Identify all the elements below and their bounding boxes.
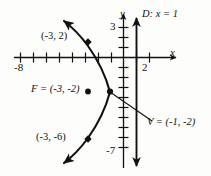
point-label-lower: (-3, -6) bbox=[36, 132, 66, 143]
directrix-label: D: x = 1 bbox=[142, 9, 178, 20]
parabola-lower-branch bbox=[64, 92, 110, 163]
vertex-leader-line bbox=[110, 92, 152, 121]
x-tick-label-neg8: -8 bbox=[14, 62, 23, 73]
parabola-upper-branch bbox=[64, 21, 110, 92]
y-axis-label: y bbox=[120, 8, 125, 19]
vertex-label: V = (-1, -2) bbox=[147, 117, 195, 128]
x-axis-label: x bbox=[170, 47, 175, 58]
focus-marker bbox=[85, 89, 91, 95]
point-label-upper: (-3, 2) bbox=[41, 31, 67, 42]
y-axis bbox=[119, 14, 129, 168]
point-marker-upper bbox=[84, 38, 91, 45]
y-tick-label-3: 3 bbox=[110, 21, 116, 32]
focus-label: F = (-3, -2) bbox=[31, 84, 80, 95]
y-tick-label-neg7: -7 bbox=[106, 145, 115, 156]
figure-canvas: y x 3 -7 -8 2 D: x = 1 (-3, 2) F = (-3, … bbox=[0, 0, 211, 176]
x-tick-label-2: 2 bbox=[142, 62, 148, 73]
